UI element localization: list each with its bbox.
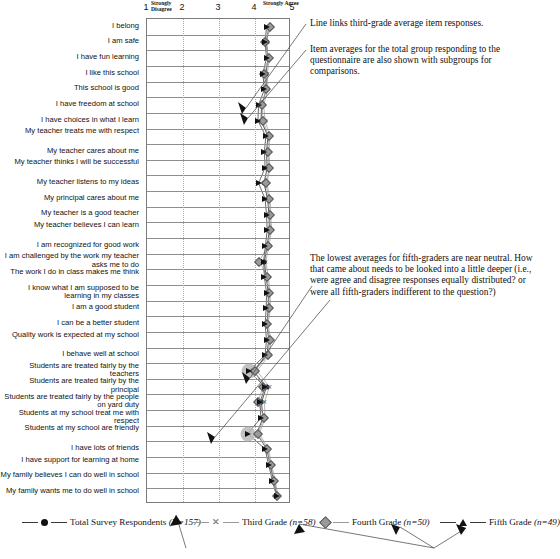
- data-point-fifth: [262, 352, 268, 358]
- plot-area: ✕✕✕✕✕✕✕✕✕✕✕✕✕✕✕✕✕✕✕✕✕✕✕✕✕✕✕✕✕✕✕: [146, 18, 290, 503]
- data-point-fifth: [266, 462, 272, 468]
- data-point-fifth: [245, 431, 251, 437]
- data-point-fifth: [263, 305, 269, 311]
- grid-line-horizontal: [147, 379, 289, 380]
- circle-marker-icon: [41, 519, 48, 526]
- data-point-fifth: [256, 180, 262, 186]
- category-label: My principal cares about me: [0, 194, 139, 202]
- grid-line-horizontal: [147, 113, 289, 114]
- legend-item-fifth[interactable]: Fifth Grade (n=49): [440, 517, 560, 527]
- legend-item-total[interactable]: Total Survey Respondents (N=157): [22, 517, 201, 527]
- x-marker-icon: ✕: [212, 519, 220, 526]
- data-point-fifth: [258, 415, 264, 421]
- category-label: I am safe: [0, 37, 139, 45]
- grid-line-horizontal: [147, 82, 289, 83]
- data-point-fifth: [255, 118, 261, 124]
- category-label: I know what I am supposed to be learning…: [0, 284, 139, 300]
- data-point-fifth: [269, 478, 275, 484]
- grid-line-horizontal: [147, 238, 289, 239]
- chart-legend: Total Survey Respondents (N=157) ✕ Third…: [0, 515, 541, 539]
- grid-line-horizontal: [147, 35, 289, 36]
- category-label: I behave well at school: [0, 350, 139, 358]
- x-tick-1-word: Strongly Disagree: [151, 1, 191, 13]
- annotation-line-links: Line links third-grade average item resp…: [310, 18, 538, 29]
- annotation-lowest-averages: The lowest averages for fifth-graders ar…: [310, 253, 538, 298]
- data-point-fifth: [260, 71, 266, 77]
- grid-line-horizontal: [147, 207, 289, 208]
- x-tick-5-word: Strongly Agree: [263, 1, 303, 7]
- legend-item-third[interactable]: ✕ Third Grade (n=58): [193, 517, 316, 527]
- category-label: I am recognized for good work: [0, 241, 139, 249]
- grid-line-horizontal: [147, 348, 289, 349]
- legend-line-total-2: [51, 522, 67, 523]
- data-point-fifth: [262, 321, 268, 327]
- category-label: Students at my school are friendly: [0, 424, 139, 432]
- data-point-fifth: [264, 337, 270, 343]
- data-point-fifth: [246, 368, 252, 374]
- x-axis-header: 1 Strongly Disagree 2 3 4 Strongly Agree…: [0, 0, 541, 18]
- data-point-fifth: [263, 133, 269, 139]
- x-tick-1: 1: [143, 2, 148, 12]
- category-labels: I belongI am safeI have fun learningI li…: [0, 18, 143, 503]
- data-point-fifth: [261, 274, 267, 280]
- legend-line-fifth-2: [470, 522, 486, 523]
- grid-line-horizontal: [147, 285, 289, 286]
- category-label: This school is good: [0, 84, 139, 92]
- category-label: I have fun learning: [0, 53, 139, 61]
- category-label: I like this school: [0, 69, 139, 77]
- category-label: I have lots of friends: [0, 444, 139, 452]
- grid-line-horizontal: [147, 269, 289, 270]
- category-label: My teacher cares about me: [0, 147, 139, 155]
- data-point-fifth: [256, 102, 262, 108]
- legend-label-total: Total Survey Respondents (N=157): [70, 517, 201, 527]
- grid-line-horizontal: [147, 97, 289, 98]
- data-point-fifth: [274, 493, 280, 499]
- category-label: My teacher treats me with respect: [0, 127, 139, 135]
- x-tick-3: 3: [215, 2, 220, 12]
- legend-line-fifth: [440, 522, 456, 523]
- category-label: I can be a better student: [0, 319, 139, 327]
- data-point-fifth: [262, 165, 268, 171]
- category-label: Quality work is expected at my school: [0, 331, 139, 339]
- legend-line-fourth: [333, 522, 349, 523]
- category-label: I have support for learning at home: [0, 456, 139, 464]
- category-label: The work I do in class makes me think: [0, 268, 139, 276]
- grid-line-horizontal: [147, 175, 289, 176]
- legend-label-fourth: Fourth Grade (n=50): [352, 517, 430, 527]
- category-label: My family believes I can do well in scho…: [0, 471, 139, 479]
- data-point-fifth: [262, 196, 268, 202]
- grid-line-horizontal: [147, 160, 289, 161]
- grid-line-horizontal: [147, 66, 289, 67]
- legend-line-third: [193, 522, 209, 523]
- data-point-fifth: [257, 399, 263, 405]
- triangle-marker-icon: [459, 519, 467, 526]
- data-point-fifth: [262, 243, 268, 249]
- grid-line-horizontal: [147, 316, 289, 317]
- data-point-fifth: [264, 55, 270, 61]
- data-point-fifth: [264, 24, 270, 30]
- category-label: My teacher is a good teacher: [0, 209, 139, 217]
- grid-line-horizontal: [147, 191, 289, 192]
- grid-line-horizontal: [147, 222, 289, 223]
- data-point-fifth: [261, 86, 267, 92]
- category-label: My teacher believes I can learn: [0, 221, 139, 229]
- data-point-fifth: [264, 212, 270, 218]
- category-label: I am a good student: [0, 303, 139, 311]
- grid-line-horizontal: [147, 488, 289, 489]
- category-label: My teacher listens to my ideas: [0, 178, 139, 186]
- grid-line-vertical: [183, 19, 184, 502]
- legend-line-third-2: [223, 522, 239, 523]
- category-label: I have choices in what I learn: [0, 116, 139, 124]
- data-point-fifth: [264, 227, 270, 233]
- data-point-fifth: [261, 149, 267, 155]
- grid-line-horizontal: [147, 441, 289, 442]
- grid-line-horizontal: [147, 473, 289, 474]
- legend-item-fourth[interactable]: Fourth Grade (n=50): [321, 517, 430, 527]
- grid-line-horizontal: [147, 50, 289, 51]
- diamond-marker-icon: [319, 516, 332, 529]
- category-label: I belong: [0, 22, 139, 30]
- grid-line-horizontal: [147, 457, 289, 458]
- grid-line-horizontal: [147, 332, 289, 333]
- legend-line-total: [22, 522, 38, 523]
